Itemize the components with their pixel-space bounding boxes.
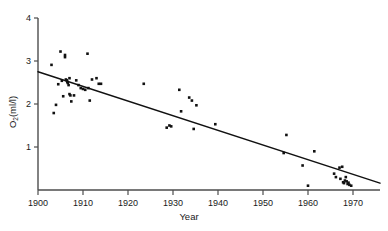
data-point — [59, 50, 62, 53]
y-axis-title: O2(ml/l) — [7, 96, 19, 128]
data-point — [84, 89, 87, 92]
data-point — [64, 56, 67, 59]
data-point — [335, 176, 338, 179]
data-point — [95, 77, 98, 80]
data-point — [341, 165, 344, 168]
data-point — [350, 184, 353, 187]
data-point — [285, 134, 288, 137]
regression-line — [38, 72, 380, 183]
data-point — [55, 104, 58, 107]
data-point — [343, 182, 346, 185]
y-tick-label: 4 — [26, 13, 31, 23]
data-point — [195, 104, 198, 107]
data-point — [333, 172, 336, 175]
data-point — [68, 77, 71, 80]
data-point — [82, 88, 85, 91]
data-point — [165, 126, 168, 129]
data-point — [91, 78, 94, 81]
data-point — [313, 150, 316, 153]
chart-figure: 123419001910192019301940195019601970Year… — [0, 0, 388, 231]
data-point — [57, 83, 60, 86]
x-tick-label: 1900 — [28, 198, 48, 208]
x-tick-label: 1950 — [253, 198, 273, 208]
x-tick-label: 1920 — [118, 198, 138, 208]
data-point — [192, 128, 195, 131]
data-point — [307, 184, 310, 187]
data-point — [79, 87, 82, 90]
x-axis-title: Year — [179, 211, 198, 222]
data-point — [69, 94, 72, 97]
y-tick-label: 1 — [26, 142, 31, 152]
data-point — [338, 166, 341, 169]
data-point — [180, 110, 183, 113]
data-point — [142, 82, 145, 85]
data-point — [97, 82, 100, 85]
scatter-plot-svg: 123419001910192019301940195019601970Year… — [0, 0, 388, 231]
data-point — [345, 176, 348, 179]
data-point — [170, 125, 173, 128]
y-axis-ticks: 1234 — [26, 13, 38, 152]
data-point — [191, 99, 194, 102]
x-tick-label: 1910 — [73, 198, 93, 208]
data-point — [339, 178, 342, 181]
data-point — [75, 79, 78, 82]
data-point — [100, 82, 103, 85]
data-point — [67, 84, 70, 87]
x-tick-label: 1970 — [343, 198, 363, 208]
data-point — [88, 99, 91, 102]
data-point — [70, 100, 73, 103]
data-point — [50, 64, 53, 67]
data-point — [301, 164, 304, 167]
x-tick-label: 1930 — [163, 198, 183, 208]
data-point — [73, 94, 76, 97]
axes-group — [38, 18, 380, 190]
y-tick-label: 3 — [26, 56, 31, 66]
x-tick-label: 1960 — [298, 198, 318, 208]
data-point — [86, 52, 89, 55]
x-axis-ticks: 19001910192019301940195019601970 — [28, 190, 363, 208]
data-point — [214, 123, 217, 126]
data-point — [178, 89, 181, 92]
y-tick-label: 2 — [26, 99, 31, 109]
data-points-group — [50, 50, 352, 187]
x-tick-label: 1940 — [208, 198, 228, 208]
data-point — [52, 112, 55, 115]
data-point — [188, 96, 191, 99]
data-point — [62, 95, 65, 98]
